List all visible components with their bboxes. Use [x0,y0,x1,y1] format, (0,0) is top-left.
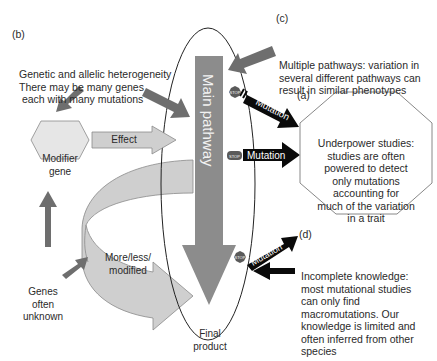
panel-d-text: Incomplete knowledge:most mutational stu… [301,245,415,361]
panel-b-text: Genetic and allelic heterogeneityThere m… [19,43,171,118]
panel-c-tag: (c) [276,12,288,25]
svg-text:Mutation: Mutation [247,150,285,161]
panel-b-tag: (b) [12,28,25,41]
effect-label: Effect [96,134,152,147]
panel-a-tag: (a) [297,89,310,102]
genes-unknown-label: Genesoftenunknown [18,261,68,336]
panel-a-text: Underpower studies:studies are oftenpowe… [300,112,432,237]
more-less-label: More/less/modified [96,227,160,290]
svg-text:Mutation: Mutation [249,242,284,268]
panel-d-tag: (d) [299,228,312,241]
svg-text:STOP: STOP [229,154,240,159]
stop-signs: STOP STOP STOP [227,86,246,263]
arrow-up-to-modifier [39,191,57,247]
arrow-c-to-pathway [228,46,276,74]
final-product-label: Finalproduct [190,303,230,361]
svg-text:STOP: STOP [230,90,241,95]
modifier-gene-label: Modifiergene [31,128,89,191]
svg-text:STOP: STOP [235,255,246,260]
mutation-arrow-3: Mutation [247,236,298,271]
mutation-arrow-2: Mutation [243,142,300,168]
main-pathway-label: Main pathway [200,74,217,167]
